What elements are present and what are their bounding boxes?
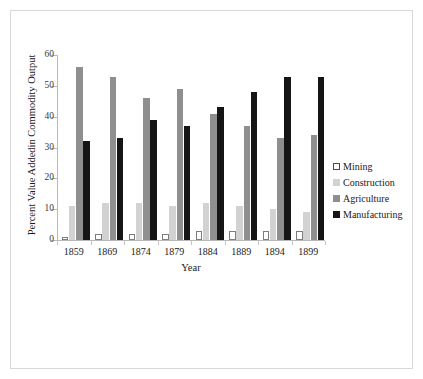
bar-mining-1899[interactable] <box>296 231 303 240</box>
bar-agriculture-1874[interactable] <box>143 98 150 240</box>
bar-agriculture-1859[interactable] <box>76 67 83 240</box>
bar-mining-1894[interactable] <box>263 231 270 240</box>
y-tick-label: 20 <box>45 171 55 184</box>
legend-item-construction[interactable]: Construction <box>333 175 417 190</box>
y-tick-label: 30 <box>45 141 55 154</box>
bar-agriculture-1894[interactable] <box>277 138 284 240</box>
bar-group <box>229 55 257 240</box>
x-axis-label-1879: 1879 <box>158 245 192 258</box>
bar-group <box>296 55 324 240</box>
x-axis-label-1869: 1869 <box>91 245 125 258</box>
bar-construction-1899[interactable] <box>303 212 310 240</box>
bar-manufacturing-1899[interactable] <box>318 77 325 240</box>
bar-construction-1879[interactable] <box>169 206 176 240</box>
bar-manufacturing-1894[interactable] <box>284 77 291 240</box>
x-tick-mark <box>325 241 326 245</box>
bar-manufacturing-1889[interactable] <box>251 92 258 240</box>
legend-label-agriculture: Agriculture <box>343 192 389 205</box>
chart-legend: Mining Construction Agriculture Manufact… <box>333 159 417 223</box>
y-tick-label: 10 <box>45 202 55 215</box>
bar-mining-1879[interactable] <box>162 234 169 240</box>
bar-group <box>263 55 291 240</box>
bar-agriculture-1884[interactable] <box>210 114 217 240</box>
legend-swatch-construction-icon <box>333 179 340 186</box>
x-axis-label-1884: 1884 <box>191 245 225 258</box>
x-axis-label-1889: 1889 <box>225 245 259 258</box>
bar-construction-1884[interactable] <box>203 203 210 240</box>
bar-agriculture-1879[interactable] <box>177 89 184 240</box>
bar-group <box>196 55 224 240</box>
legend-item-manufacturing[interactable]: Manufacturing <box>333 207 417 222</box>
legend-item-agriculture[interactable]: Agriculture <box>333 191 417 206</box>
bar-agriculture-1899[interactable] <box>311 135 318 240</box>
bar-mining-1874[interactable] <box>129 234 136 240</box>
bar-group <box>62 55 90 240</box>
bar-construction-1894[interactable] <box>270 209 277 240</box>
plot-area <box>57 55 325 240</box>
legend-label-mining: Mining <box>343 160 372 173</box>
x-axis-label-1874: 1874 <box>124 245 158 258</box>
bar-construction-1889[interactable] <box>236 206 243 240</box>
bar-mining-1869[interactable] <box>95 234 102 240</box>
bar-mining-1859[interactable] <box>62 237 69 240</box>
y-tick-label: 50 <box>45 79 55 92</box>
x-axis-title: Year <box>57 261 325 275</box>
y-tick-label: 60 <box>45 48 55 61</box>
bar-manufacturing-1869[interactable] <box>117 138 124 240</box>
y-axis-title: Percent Value Addedin Commodity Output <box>24 40 40 250</box>
x-axis-label-1894: 1894 <box>258 245 292 258</box>
bar-manufacturing-1879[interactable] <box>184 126 191 240</box>
bar-construction-1874[interactable] <box>136 203 143 240</box>
bar-construction-1859[interactable] <box>69 206 76 240</box>
y-tick-label: 40 <box>45 110 55 123</box>
bar-agriculture-1869[interactable] <box>110 77 117 240</box>
bar-manufacturing-1884[interactable] <box>217 107 224 240</box>
bar-group <box>162 55 190 240</box>
legend-swatch-agriculture-icon <box>333 195 340 202</box>
bar-construction-1869[interactable] <box>102 203 109 240</box>
bar-manufacturing-1874[interactable] <box>150 120 157 240</box>
legend-item-mining[interactable]: Mining <box>333 159 417 174</box>
legend-label-manufacturing: Manufacturing <box>343 208 402 221</box>
y-tick-label: 0 <box>49 233 54 246</box>
bar-manufacturing-1859[interactable] <box>83 141 90 240</box>
x-axis-label-1859: 1859 <box>57 245 91 258</box>
bar-mining-1889[interactable] <box>229 231 236 240</box>
figure-canvas: Percent Value Addedin Commodity Output 0… <box>0 0 423 379</box>
bar-group <box>129 55 157 240</box>
x-axis-label-1899: 1899 <box>292 245 326 258</box>
legend-swatch-manufacturing-icon <box>333 211 340 218</box>
legend-swatch-mining-icon <box>333 163 340 170</box>
y-axis-title-text: Percent Value Addedin Commodity Output <box>24 40 40 250</box>
legend-label-construction: Construction <box>343 176 395 189</box>
bar-agriculture-1889[interactable] <box>244 126 251 240</box>
bar-mining-1884[interactable] <box>196 231 203 240</box>
bar-group <box>95 55 123 240</box>
